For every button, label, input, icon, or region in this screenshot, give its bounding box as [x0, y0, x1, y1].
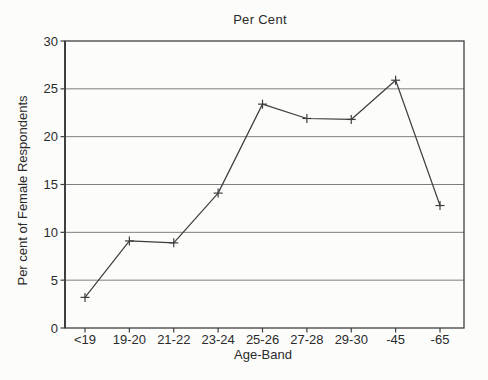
x-tick-label: 21-22 [157, 332, 190, 347]
data-line [85, 80, 440, 297]
y-tick-label: 10 [44, 225, 58, 240]
x-axis-label: Age-Band [65, 347, 461, 362]
x-tick-label: 25-26 [246, 332, 279, 347]
x-tick-label: 27-28 [290, 332, 323, 347]
data-markers [81, 76, 445, 302]
x-tick-label: 19-20 [113, 332, 146, 347]
data-point-marker [436, 201, 445, 210]
y-tick-label: 5 [51, 273, 58, 288]
x-tick-label: <19 [74, 332, 96, 347]
x-tick-label: 23-24 [202, 332, 235, 347]
gridlines [65, 89, 464, 280]
line-plot: 051015202530<1919-2021-2223-2425-2627-28… [0, 0, 488, 380]
x-tick-label: -65 [431, 332, 450, 347]
y-axis: 051015202530 [44, 34, 65, 336]
data-point-marker [258, 100, 267, 109]
x-axis: <1919-2021-2223-2425-2627-2829-30-45-65 [74, 328, 449, 347]
data-point-marker [302, 114, 311, 123]
x-tick-label: 29-30 [335, 332, 368, 347]
y-tick-label: 20 [44, 129, 58, 144]
y-tick-label: 0 [51, 321, 58, 336]
y-tick-label: 25 [44, 81, 58, 96]
x-tick-label: -45 [386, 332, 405, 347]
y-tick-label: 15 [44, 177, 58, 192]
chart-figure: Per Cent Per cent of Female Respondents … [0, 0, 488, 380]
y-tick-label: 30 [44, 34, 58, 49]
